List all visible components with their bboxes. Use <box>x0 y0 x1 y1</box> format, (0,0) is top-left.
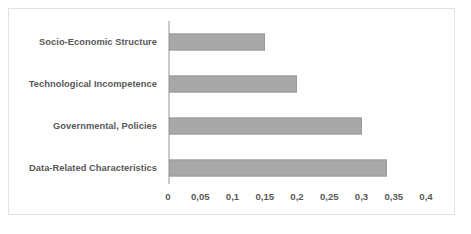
x-axis-tick-label: 0,15 <box>255 191 274 202</box>
plot-area: Socio-Economic Structure Technological I… <box>9 9 454 214</box>
category-label: Data-Related Characteristics <box>9 163 157 173</box>
category-label: Technological Incompetence <box>9 79 157 89</box>
category-label: Socio-Economic Structure <box>9 37 157 47</box>
x-axis-tick-label: 0,25 <box>320 191 339 202</box>
bar-row: Socio-Economic Structure <box>9 21 454 63</box>
bar-governmental-policies <box>169 118 362 135</box>
bar-socio-economic-structure <box>169 34 265 51</box>
bar-technological-incompetence <box>169 76 297 93</box>
x-axis-tick-label: 0,1 <box>226 191 239 202</box>
x-axis-tick-label: 0,3 <box>355 191 368 202</box>
bar-data-related-characteristics <box>169 160 387 177</box>
x-axis-tick-label: 0 <box>165 191 170 202</box>
bar-row: Governmental, Policies <box>9 105 454 147</box>
category-label: Governmental, Policies <box>9 121 157 131</box>
bar-chart-figure: Socio-Economic Structure Technological I… <box>8 8 455 215</box>
bar-row: Technological Incompetence <box>9 63 454 105</box>
x-axis-tick-label: 0,35 <box>384 191 403 202</box>
x-axis-tick-label: 0,2 <box>290 191 303 202</box>
x-axis-tick-label: 0,4 <box>419 191 432 202</box>
bar-row: Data-Related Characteristics <box>9 147 454 189</box>
x-axis-tick-label: 0,05 <box>191 191 210 202</box>
x-axis-tick-labels: 00,050,10,150,20,250,30,350,4 <box>9 186 454 212</box>
